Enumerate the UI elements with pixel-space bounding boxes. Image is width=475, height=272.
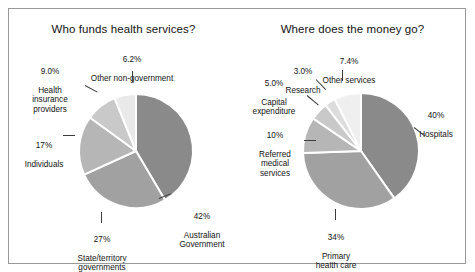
left-label-health-insurance: 9.0% Health insurance providers [11,57,89,124]
right-leader-primary-health [335,209,336,220]
left-pie-slice-0 [136,94,193,200]
left-leader-other-non-government [132,71,133,82]
right-pie-slice-3 [313,105,361,151]
right-label-primary-health: 34% Primary health care [288,223,384,272]
left-name-australian-government: Australian Government [169,231,235,250]
right-pct-primary-health: 34% [288,233,384,243]
left-pct-individuals: 17% [11,141,77,151]
right-pct-referred-medical: 10% [238,131,312,141]
right-pct-hospitals: 40% [406,111,466,121]
left-pie-slice-4 [115,94,136,151]
left-name-individuals: Individuals [11,160,77,170]
right-pie-slice-5 [335,93,361,151]
left-pct-health-insurance: 9.0% [11,67,89,77]
right-pct-capital-expenditure: 5.0% [238,79,310,89]
right-name-hospitals: Hospitals [406,130,466,140]
right-leader-other-services [342,70,343,81]
right-label-referred-medical: 10% Referred medical services [238,121,312,188]
left-name-health-insurance: Health insurance providers [11,86,89,115]
right-label-hospitals: 40% Hospitals [406,101,466,149]
left-pie-slice-2 [79,118,136,175]
left-leader-australian-government [159,193,171,199]
chart-frame-border: Who funds health services? 6.2% Other no… [8,8,466,264]
right-pie-slice-1 [303,151,394,209]
figure-root: Who funds health services? 6.2% Other no… [0,0,475,272]
left-label-state-territory: 27% State/territory governments [47,225,157,272]
right-name-primary-health: Primary health care [288,252,384,271]
right-name-referred-medical: Referred medical services [238,150,312,179]
left-leader-state-territory [101,212,102,223]
left-label-individuals: 17% Individuals [11,131,77,179]
right-label-capital-expenditure: 5.0% Capital expenditure [238,69,310,127]
right-leader-referred-medical [304,140,316,141]
left-leader-individuals [63,135,75,136]
left-pie-slice-3 [90,98,136,151]
left-pie-slice-1 [84,151,165,208]
right-chart-title: Where does the money go? [238,23,467,35]
right-pie-slice-4 [326,99,361,151]
left-pct-australian-government: 42% [169,212,235,222]
pie-panel-who-funds: Who funds health services? 6.2% Other no… [9,9,238,263]
left-name-state-territory: State/territory governments [47,254,157,272]
pie-panel-money-go: Where does the money go? 7.4% Other serv… [238,9,467,263]
left-pct-state-territory: 27% [47,235,157,245]
right-name-capital-expenditure: Capital expenditure [238,98,310,117]
left-label-australian-government: 42% Australian Government [169,202,235,260]
left-chart-title: Who funds health services? [9,23,238,35]
